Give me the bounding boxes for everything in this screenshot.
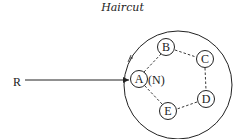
node-b: B [158,39,175,56]
svg-text:D: D [202,92,211,106]
node-a: A [131,71,148,88]
edge-b-c [175,50,196,57]
edge-a-b [144,54,161,72]
node-r-label: R [13,75,21,89]
svg-text:A: A [135,72,144,86]
network-diagram: R A (N) B C D E [0,0,245,139]
edge-d-e [177,102,197,109]
svg-text:E: E [164,104,171,118]
node-e: E [160,103,177,120]
svg-text:C: C [201,52,209,66]
edge-c-d [205,68,206,90]
node-c: C [197,51,214,68]
edge-e-a [145,86,162,104]
node-d: D [198,91,215,108]
node-a-annotation: (N) [148,73,165,87]
svg-text:B: B [162,40,170,54]
